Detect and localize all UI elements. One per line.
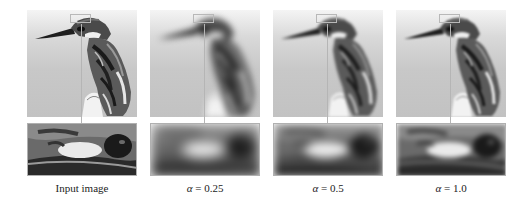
- panel-alpha-1-0: α = 1.0: [396, 0, 506, 204]
- leader-line: [327, 24, 328, 124]
- roi-box: [70, 14, 91, 23]
- zoom-inset: [396, 123, 506, 176]
- zoom-inset: [273, 123, 383, 176]
- leader-line: [81, 24, 82, 124]
- roi-box: [316, 14, 337, 23]
- zoom-inset: [150, 123, 260, 176]
- caption-alpha: α = 0.5: [258, 182, 398, 194]
- panel-input: Input image: [27, 0, 137, 204]
- zoom-inset: [27, 123, 137, 176]
- result-image: [150, 10, 260, 117]
- leader-line: [450, 24, 451, 124]
- panel-alpha-0-5: α = 0.5: [273, 0, 383, 204]
- caption-input: Input image: [12, 182, 152, 194]
- roi-box: [439, 14, 460, 23]
- roi-box: [193, 14, 214, 23]
- result-image: [396, 10, 506, 117]
- leader-line: [204, 24, 205, 124]
- caption-alpha: α = 0.25: [135, 182, 275, 194]
- result-image: [273, 10, 383, 117]
- panel-alpha-0-25: α = 0.25: [150, 0, 260, 204]
- input-image: [27, 10, 137, 117]
- caption-alpha: α = 1.0: [381, 182, 521, 194]
